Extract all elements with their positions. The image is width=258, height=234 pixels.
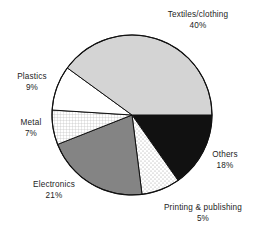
slice-label-name: Printing & publishing [150,203,256,214]
slice-label-name: Plastics [4,72,60,83]
slice-label-value: 18% [196,161,254,172]
slice-label-name: Textiles/clothing [146,10,250,21]
slice-label-name: Others [196,150,254,161]
slice-label-value: 7% [8,129,54,140]
slice-label-value: 40% [146,21,250,32]
slice-label-name: Metal [8,118,54,129]
slice-label-printing-publishing: Printing & publishing 5% [150,203,256,224]
slice-label-metal: Metal 7% [8,118,54,139]
slice-label-plastics: Plastics 9% [4,72,60,93]
slice-label-electronics: Electronics 21% [16,180,92,201]
slice-label-others: Others 18% [196,150,254,171]
pie-chart: Textiles/clothing 40% Others 18% Printin… [0,0,258,234]
slice-label-value: 5% [150,214,256,225]
slice-label-value: 9% [4,83,60,94]
slice-label-value: 21% [16,191,92,202]
slice-label-textiles-clothing: Textiles/clothing 40% [146,10,250,31]
slice-label-name: Electronics [16,180,92,191]
